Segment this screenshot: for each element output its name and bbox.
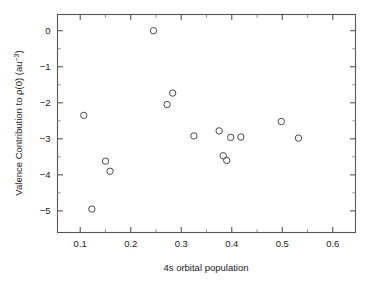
y-tick-label: 0 [45,25,50,36]
y-axis-title-prefix: Valence Contribution to [13,95,24,196]
x-tick-label: 0.3 [175,238,188,249]
y-axis-title-unit-exponent: −3 [13,53,20,61]
x-tick-label: 0.2 [124,238,137,249]
y-axis-title-unit-open: (au [13,62,24,78]
y-tick-label: −3 [40,133,51,144]
x-tick-label: 0.4 [225,238,238,249]
x-tick-label: 0.5 [276,238,289,249]
x-axis-title: 4s orbital population [163,262,248,273]
plot-canvas: 0.10.20.30.40.50.6 0−1−2−3−4−5 4s orbita… [0,0,380,284]
scatter-chart-figure: 0.10.20.30.40.50.6 0−1−2−3−4−5 4s orbita… [0,0,380,284]
y-tick-label: −1 [40,61,51,72]
y-axis-title: Valence Contribution to ρ(0) (au−3) [13,50,25,195]
y-axis-title-rho: ρ(0) [13,78,24,95]
x-tick-label: 0.1 [74,238,87,249]
x-tick-label: 0.6 [326,238,339,249]
y-axis-title-unit-close: ) [13,50,24,53]
y-tick-label: −4 [40,169,51,180]
y-tick-label: −2 [40,97,51,108]
y-tick-label: −5 [40,205,51,216]
